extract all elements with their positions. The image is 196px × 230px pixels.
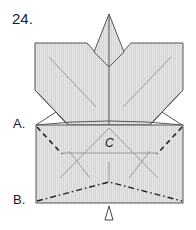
reference-label-c: C <box>105 136 114 150</box>
upper-flaps <box>35 14 183 125</box>
lower-panel <box>36 121 183 203</box>
step-number: 24. <box>12 10 33 27</box>
origami-diagram <box>0 0 196 230</box>
fold-label-b: B. <box>13 192 25 207</box>
fold-label-a: A. <box>13 116 25 131</box>
turn-over-arrow-icon <box>105 206 113 220</box>
